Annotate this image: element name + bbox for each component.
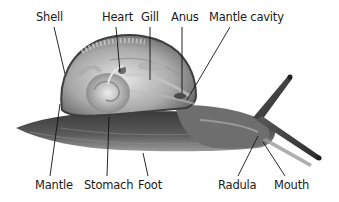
label-anus: Anus	[171, 12, 199, 24]
label-shell: Shell	[36, 12, 63, 24]
snail-anatomy-diagram: Shell Heart Gill Anus Mantle cavity Mant…	[0, 0, 339, 202]
label-stomach: Stomach	[84, 180, 133, 192]
snail-illustration	[0, 0, 339, 202]
upper-tentacle	[253, 76, 292, 120]
label-mantle-cavity: Mantle cavity	[209, 12, 284, 24]
label-heart: Heart	[102, 12, 133, 24]
anus-organ	[174, 93, 186, 99]
label-mantle: Mantle	[35, 180, 73, 192]
label-radula: Radula	[218, 180, 256, 192]
label-foot: Foot	[138, 180, 162, 192]
label-mouth: Mouth	[274, 180, 309, 192]
label-gill: Gill	[141, 12, 159, 24]
